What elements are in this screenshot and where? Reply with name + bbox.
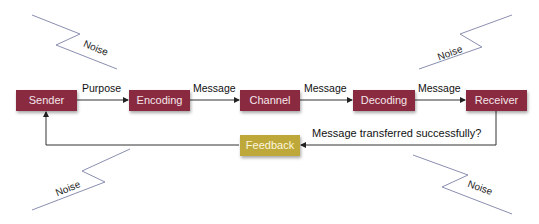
node-sender: Sender xyxy=(16,90,77,111)
node-channel: Channel xyxy=(240,90,300,111)
node-receiver: Receiver xyxy=(466,90,527,111)
edge-label-message-1: Message xyxy=(193,82,236,94)
edge-label-message-3: Message xyxy=(418,82,461,94)
node-feedback: Feedback xyxy=(240,135,300,156)
node-encoding: Encoding xyxy=(129,90,190,111)
edge-label-purpose: Purpose xyxy=(82,82,121,94)
connector-lines xyxy=(0,0,539,224)
edge-label-message-2: Message xyxy=(304,82,347,94)
edge-label-feedback-question: Message transferred successfully? xyxy=(312,127,481,139)
node-decoding: Decoding xyxy=(353,90,415,111)
